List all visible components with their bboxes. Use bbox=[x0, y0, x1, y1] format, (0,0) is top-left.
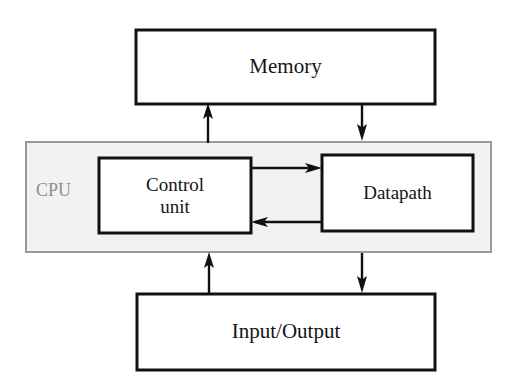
arrow-datapath-to-input-output bbox=[357, 253, 367, 293]
diagram-canvas bbox=[0, 0, 517, 385]
control-unit-box bbox=[99, 158, 251, 233]
arrow-input-output-to-control-unit bbox=[204, 252, 214, 293]
arrow-memory-to-datapath bbox=[357, 104, 367, 141]
memory-box bbox=[136, 30, 435, 104]
computer-organization-diagram: Memory CPU Control unit Datapath Input/O… bbox=[0, 0, 517, 385]
arrow-control-unit-to-memory bbox=[203, 103, 213, 143]
datapath-box bbox=[322, 155, 473, 231]
input-output-box bbox=[137, 294, 435, 370]
